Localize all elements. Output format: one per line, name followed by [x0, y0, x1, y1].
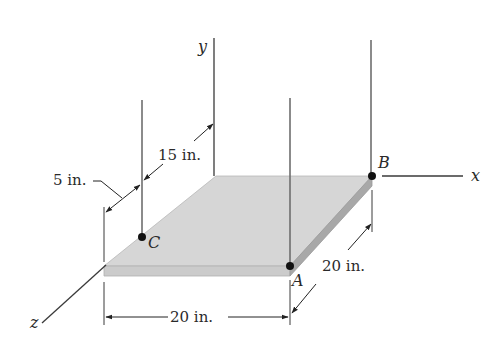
dim-label-depth-right: 20 in. — [322, 257, 365, 275]
dim-line-15-upper — [194, 124, 213, 141]
point-c-marker — [138, 233, 146, 241]
x-axis-label: x — [471, 166, 480, 185]
plate-cable-diagram: y x z B C A 20 in. 20 in. 15 in. 5 in. — [0, 0, 501, 344]
point-c-label: C — [148, 233, 160, 252]
plate-front-edge — [104, 266, 290, 276]
dim-label-width-front: 20 in. — [170, 308, 213, 326]
dim-label-15: 15 in. — [158, 146, 201, 164]
point-b-marker — [368, 172, 376, 180]
y-axis-label: y — [197, 37, 208, 56]
dim-label-5: 5 in. — [53, 171, 87, 189]
z-axis — [42, 265, 106, 323]
leader-5 — [93, 181, 122, 198]
point-b-label: B — [377, 153, 390, 172]
z-axis-label: z — [29, 313, 39, 332]
dim-line-right-upper — [348, 224, 371, 250]
point-a-marker — [286, 262, 294, 270]
dim-line-15-lower — [144, 164, 163, 180]
point-a-label: A — [290, 271, 304, 290]
